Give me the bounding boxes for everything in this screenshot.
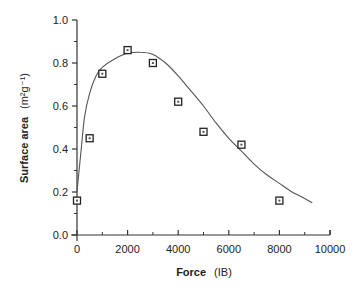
data-point — [276, 197, 283, 204]
data-point — [149, 60, 156, 67]
x-tick-label: 0 — [74, 243, 80, 255]
data-point — [200, 128, 207, 135]
data-point — [86, 135, 93, 142]
x-tick-label: 2000 — [115, 243, 139, 255]
x-axis-title: Force(IB) — [176, 266, 232, 278]
fitted-curve-line — [77, 52, 312, 203]
y-tick-label: 0.4 — [53, 143, 68, 155]
y-tick-label: 1.0 — [53, 14, 68, 26]
x-axis-ticks: 0200040006000800010000 — [74, 230, 345, 255]
data-point — [74, 197, 81, 204]
y-tick-label: 0.2 — [53, 186, 68, 198]
data-points — [74, 47, 283, 205]
data-point — [124, 47, 131, 54]
y-tick-label: 0.6 — [53, 100, 68, 112]
data-point — [238, 141, 245, 148]
y-tick-label: 0.8 — [53, 57, 68, 69]
x-tick-label: 6000 — [217, 243, 241, 255]
chart: 0.00.20.40.60.81.0 020004000600080001000… — [0, 0, 360, 290]
data-point — [175, 98, 182, 105]
x-tick-label: 10000 — [315, 243, 346, 255]
y-tick-label: 0.0 — [53, 229, 68, 241]
y-axis-title: Surface area(m²g⁻¹) — [18, 73, 30, 183]
data-point — [99, 70, 106, 77]
y-axis-ticks: 0.00.20.40.60.81.0 — [53, 14, 77, 241]
x-tick-label: 4000 — [166, 243, 190, 255]
x-tick-label: 8000 — [267, 243, 291, 255]
